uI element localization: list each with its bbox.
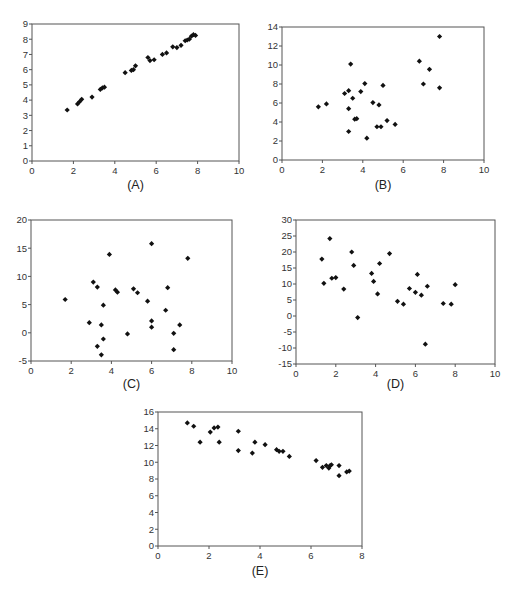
panel-label: (A) xyxy=(127,178,144,192)
data-point-marker xyxy=(377,261,382,266)
data-point-marker xyxy=(346,106,351,111)
y-tick-label: 5 xyxy=(22,299,27,310)
panel-d: 0246810-15-10-5051015202530(D) xyxy=(278,214,500,391)
plot-frame xyxy=(32,24,239,161)
data-point-marker xyxy=(178,43,183,48)
x-tick-label: 10 xyxy=(479,164,490,175)
x-tick-label: 8 xyxy=(189,365,194,376)
data-point-marker xyxy=(163,308,168,313)
data-point-marker xyxy=(65,107,70,112)
data-point-marker xyxy=(336,463,341,468)
data-point-marker xyxy=(378,124,383,129)
data-point-marker xyxy=(164,50,169,55)
data-points xyxy=(65,32,199,113)
data-point-marker xyxy=(370,100,375,105)
x-tick-label: 8 xyxy=(453,368,458,379)
data-point-marker xyxy=(355,315,360,320)
x-tick-label: 10 xyxy=(227,365,238,376)
data-point-marker xyxy=(125,331,130,336)
y-tick-label: -5 xyxy=(19,355,27,366)
data-point-marker xyxy=(250,450,255,455)
y-tick-label: 14 xyxy=(267,21,278,32)
x-tick-label: 4 xyxy=(360,164,365,175)
data-point-marker xyxy=(123,70,128,75)
y-tick-label: 12 xyxy=(267,40,278,51)
data-point-marker xyxy=(321,281,326,286)
panel-label: (D) xyxy=(387,377,404,391)
x-tick-label: 6 xyxy=(149,365,154,376)
data-point-marker xyxy=(437,34,442,39)
data-point-marker xyxy=(160,52,165,57)
data-point-marker xyxy=(314,458,319,463)
x-tick-label: 8 xyxy=(359,550,364,561)
data-point-marker xyxy=(217,440,222,445)
x-tick-label: 0 xyxy=(293,368,298,379)
y-tick-label: 2 xyxy=(149,524,154,535)
data-point-marker xyxy=(63,297,68,302)
data-point-marker xyxy=(280,449,285,454)
x-tick-label: 2 xyxy=(333,368,338,379)
y-tick-label: -15 xyxy=(278,358,292,369)
data-point-marker xyxy=(185,256,190,261)
data-point-marker xyxy=(149,241,154,246)
y-tick-label: 4 xyxy=(273,116,278,127)
data-point-marker xyxy=(401,302,406,307)
data-point-marker xyxy=(346,129,351,134)
x-tick-label: 10 xyxy=(490,368,501,379)
data-point-marker xyxy=(421,81,426,86)
y-tick-label: 5 xyxy=(287,294,292,305)
data-point-marker xyxy=(99,352,104,357)
data-points xyxy=(319,236,458,347)
data-point-marker xyxy=(441,301,446,306)
data-point-marker xyxy=(453,282,458,287)
y-tick-label: -10 xyxy=(278,342,292,353)
data-point-marker xyxy=(185,420,190,425)
y-tick-label: 10 xyxy=(143,457,154,468)
y-tick-label: 2 xyxy=(273,135,278,146)
data-point-marker xyxy=(387,251,392,256)
data-point-marker xyxy=(395,299,400,304)
data-point-marker xyxy=(171,331,176,336)
y-tick-label: 3 xyxy=(23,110,28,121)
y-tick-label: 0 xyxy=(23,155,28,166)
data-point-marker xyxy=(87,320,92,325)
data-point-marker xyxy=(371,279,376,284)
y-axis: 0123456789 xyxy=(23,18,32,166)
x-tick-label: 0 xyxy=(28,365,33,376)
panel-c: 0246810-505101520(C) xyxy=(16,214,237,391)
data-point-marker xyxy=(348,61,353,66)
data-point-marker xyxy=(236,429,241,434)
y-tick-label: 8 xyxy=(23,34,28,45)
y-tick-label: 30 xyxy=(281,214,292,225)
y-tick-label: 0 xyxy=(273,154,278,165)
data-point-marker xyxy=(346,88,351,93)
x-axis: 0246810 xyxy=(279,160,489,175)
plot-frame xyxy=(158,412,362,546)
x-tick-label: 8 xyxy=(441,164,446,175)
data-point-marker xyxy=(362,81,367,86)
y-tick-label: 0 xyxy=(149,540,154,551)
data-point-marker xyxy=(342,91,347,96)
data-point-marker xyxy=(149,318,154,323)
data-point-marker xyxy=(324,101,329,106)
data-point-marker xyxy=(101,336,106,341)
data-point-marker xyxy=(191,424,196,429)
scatter-figure: 02468100123456789(A) 024681002468101214(… xyxy=(0,0,518,593)
x-tick-label: 6 xyxy=(154,165,159,176)
y-axis: -15-10-5051015202530 xyxy=(278,214,296,369)
data-point-marker xyxy=(91,279,96,284)
y-tick-label: 2 xyxy=(23,125,28,136)
x-tick-label: 10 xyxy=(234,165,245,176)
data-point-marker xyxy=(215,424,220,429)
x-tick-label: 2 xyxy=(69,365,74,376)
x-tick-label: 4 xyxy=(257,550,262,561)
x-axis: 0246810 xyxy=(28,361,237,376)
x-tick-label: 0 xyxy=(155,550,160,561)
data-point-marker xyxy=(101,303,106,308)
data-point-marker xyxy=(95,285,100,290)
x-tick-label: 4 xyxy=(109,365,114,376)
x-tick-label: 6 xyxy=(413,368,418,379)
data-point-marker xyxy=(131,286,136,291)
data-point-marker xyxy=(350,96,355,101)
data-point-marker xyxy=(149,325,154,330)
